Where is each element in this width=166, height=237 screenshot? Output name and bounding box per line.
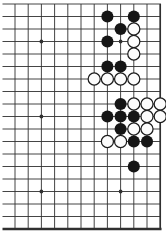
white-stone	[101, 135, 113, 147]
go-board[interactable]	[0, 0, 166, 237]
black-stone	[128, 160, 140, 172]
white-stone	[128, 98, 140, 110]
black-stone	[115, 60, 127, 72]
black-stone	[128, 135, 140, 147]
white-stone	[154, 110, 166, 122]
star-point	[40, 40, 44, 44]
white-stone	[128, 48, 140, 60]
black-stone	[141, 135, 153, 147]
black-stone	[128, 10, 140, 22]
black-stone	[101, 35, 113, 47]
star-point	[119, 40, 123, 44]
white-stone	[141, 98, 153, 110]
star-point	[40, 190, 44, 194]
white-stone	[88, 73, 100, 85]
scanned-page	[0, 0, 166, 237]
white-stone	[128, 73, 140, 85]
white-stone	[154, 98, 166, 110]
black-stone	[115, 23, 127, 35]
white-stone	[141, 123, 153, 135]
black-stone	[101, 10, 113, 22]
white-stone	[115, 73, 127, 85]
white-stone	[128, 23, 140, 35]
black-stone	[128, 110, 140, 122]
star-point	[40, 115, 44, 119]
white-stone	[128, 35, 140, 47]
star-point	[119, 190, 123, 194]
black-stone	[115, 98, 127, 110]
white-stone	[101, 73, 113, 85]
black-stone	[115, 110, 127, 122]
black-stone	[101, 110, 113, 122]
black-stone	[101, 60, 113, 72]
black-stone	[115, 123, 127, 135]
white-stone	[128, 123, 140, 135]
white-stone	[115, 135, 127, 147]
white-stone	[141, 110, 153, 122]
